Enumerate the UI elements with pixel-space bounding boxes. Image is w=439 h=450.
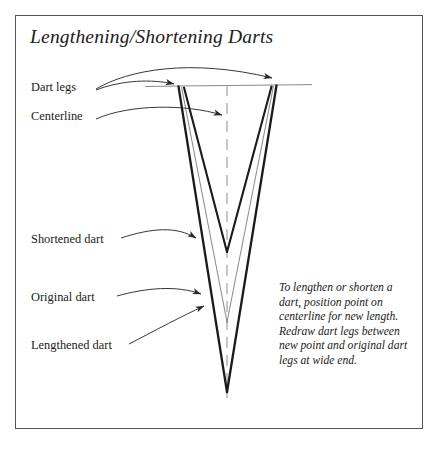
caption-line: To lengthen or shorten a: [279, 281, 411, 296]
label-original-dart: Original dart: [31, 290, 95, 305]
caption-line: centerline for new length.: [279, 310, 411, 325]
label-shortened-dart: Shortened dart: [31, 232, 104, 247]
lengthened-dart-apex-point: [226, 391, 228, 393]
caption-line: dart, position point on: [279, 296, 411, 311]
label-dart-legs: Dart legs: [31, 80, 76, 95]
caption-line: legs at wide end.: [279, 354, 411, 369]
shortened-dart-apex-point: [226, 251, 228, 253]
lengthened-dart-right-leg: [227, 86, 277, 393]
label-lengthened-dart: Lengthened dart: [31, 338, 112, 353]
caption-line: Redraw dart legs between: [279, 325, 411, 340]
original-dart-right-leg: [227, 86, 274, 322]
lengthened-dart-left-leg: [179, 87, 228, 393]
label-centerline: Centerline: [31, 109, 83, 124]
leader-lengthened-dart: [129, 306, 204, 344]
original-dart-left-leg: [182, 87, 228, 322]
shortened-dart-left-leg: [184, 88, 227, 253]
leader-centerline: [96, 107, 222, 119]
waistline-group: [145, 85, 312, 87]
waistline-left-segment: [145, 86, 178, 87]
original-dart-apex-point: [226, 321, 228, 323]
dart-diagram: [0, 0, 439, 450]
leader-original-dart: [117, 288, 201, 296]
instruction-caption: To lengthen or shorten a dart, position …: [279, 281, 411, 369]
caption-line: new point and original dart: [279, 339, 411, 354]
leader-shortened-dart: [121, 230, 196, 238]
shortened-dart-right-leg: [227, 87, 272, 253]
page-canvas: Lengthening/Shortening Darts: [0, 0, 439, 450]
leader-dart-legs-left: [96, 81, 174, 90]
